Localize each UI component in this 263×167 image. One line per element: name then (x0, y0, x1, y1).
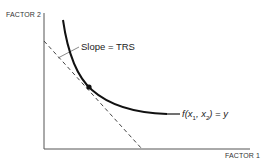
y-axis-label: FACTOR 2 (6, 11, 41, 18)
curve-label: f(x1, x2) = y (182, 108, 228, 121)
tangent-point (86, 84, 91, 89)
x-axis-label: FACTOR 1 (225, 152, 260, 159)
tangent-line (44, 41, 142, 149)
tangent-label: Slope = TRS (81, 41, 135, 52)
isoquant-curve (63, 20, 167, 114)
curve-label-suffix: ) = y (209, 108, 228, 119)
diagram-canvas (0, 0, 263, 167)
